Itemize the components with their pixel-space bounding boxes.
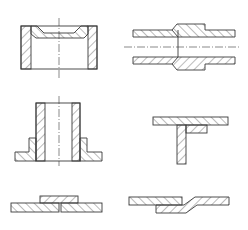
fig5-butt-joint bbox=[11, 196, 102, 212]
fig1-cup-sleeve bbox=[21, 18, 97, 80]
fig3-flanged-bushing bbox=[15, 96, 102, 166]
fig4-t-joint bbox=[153, 117, 228, 164]
fig6-joggled-lap-joint bbox=[129, 197, 229, 213]
fig2-pipe-joint bbox=[124, 24, 240, 70]
diagram-canvas bbox=[0, 0, 248, 230]
